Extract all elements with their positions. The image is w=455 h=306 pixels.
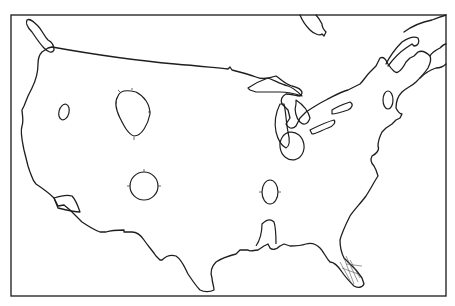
st-lawrence (386, 37, 419, 66)
lake-huron (295, 100, 310, 124)
region-new-york (383, 91, 393, 109)
florida-hatching (340, 256, 362, 284)
region-wyoming (116, 91, 150, 136)
lake-ontario (332, 102, 352, 114)
region-michigan (278, 130, 306, 162)
us-outline-map (0, 0, 455, 306)
us-coastline (21, 47, 431, 292)
region-new-mexico (130, 172, 158, 200)
gulf-st-lawrence (404, 15, 446, 32)
region-tennessee (262, 180, 278, 204)
region-nevada (57, 103, 71, 121)
nova-scotia (420, 64, 446, 78)
gulf-lobe (54, 195, 80, 212)
region-mississippi-embayment (256, 220, 276, 246)
lake-michigan (275, 104, 289, 148)
james-bay (300, 15, 326, 36)
hachure-ticks (118, 88, 281, 192)
lake-erie (310, 120, 335, 134)
maritime-coast (430, 44, 446, 56)
